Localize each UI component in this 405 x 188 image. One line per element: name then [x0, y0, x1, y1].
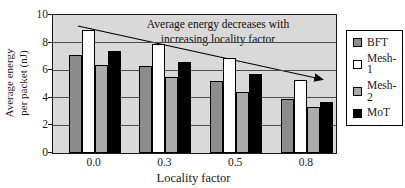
- y-tick-label-0: 0: [28, 146, 48, 158]
- legend: BFTMesh-1Mesh-2MoT: [346, 30, 403, 126]
- legend-label-mesh-2: Mesh-2: [367, 80, 402, 103]
- y-tick-label-10: 10: [28, 8, 48, 20]
- chart-figure: Average energy per packet (nJ) Average e…: [0, 0, 405, 188]
- y-tick-mark-0: [48, 152, 52, 153]
- y-tick-mark-10: [48, 14, 52, 15]
- y-tick-label-4: 4: [28, 91, 48, 103]
- legend-item-bft: BFT: [353, 37, 402, 49]
- bar-mot-0.5: [249, 74, 262, 153]
- legend-item-mot: MoT: [353, 107, 402, 119]
- bar-mesh-2-0.8: [307, 107, 320, 153]
- bar-bft-0.5: [210, 81, 223, 153]
- bar-mesh-2-0.5: [236, 92, 249, 153]
- legend-label-mot: MoT: [367, 107, 390, 119]
- y-tick-label-8: 8: [28, 36, 48, 48]
- legend-swatch-bft: [353, 38, 362, 47]
- bar-mesh-1-0.3: [152, 44, 165, 153]
- legend-swatch-mot: [353, 109, 362, 118]
- y-axis-title-line2: per packet (nJ): [17, 50, 29, 115]
- bar-mot-0.3: [178, 62, 191, 153]
- bar-bft-0.8: [281, 99, 294, 153]
- bar-mesh-2-0.0: [95, 65, 108, 153]
- bar-mot-0.0: [108, 51, 121, 153]
- y-axis-title-line1: Average energy: [3, 49, 15, 118]
- bar-mesh-1-0.8: [294, 80, 307, 153]
- legend-label-bft: BFT: [367, 37, 388, 49]
- y-tick-mark-2: [48, 124, 52, 125]
- bar-mot-0.8: [320, 102, 333, 153]
- x-tick-label-0.5: 0.5: [213, 156, 257, 168]
- legend-item-mesh-1: Mesh-1: [353, 53, 402, 76]
- y-tick-mark-6: [48, 69, 52, 70]
- y-tick-mark-4: [48, 97, 52, 98]
- bar-mesh-1-0.0: [82, 30, 95, 153]
- x-tick-label-0.3: 0.3: [142, 156, 186, 168]
- bar-mesh-1-0.5: [223, 58, 236, 153]
- legend-label-mesh-1: Mesh-1: [367, 53, 402, 76]
- x-tick-label-0.8: 0.8: [284, 156, 328, 168]
- legend-swatch-mesh-2: [353, 87, 362, 96]
- legend-swatch-mesh-1: [353, 60, 362, 69]
- bar-bft-0.0: [69, 55, 82, 153]
- x-tick-label-0.0: 0.0: [72, 156, 116, 168]
- y-tick-label-2: 2: [28, 118, 48, 130]
- y-tick-mark-8: [48, 42, 52, 43]
- legend-item-mesh-2: Mesh-2: [353, 80, 402, 103]
- bar-bft-0.3: [139, 66, 152, 153]
- gridline-y8: [53, 42, 336, 43]
- plot-area: Average energy decreases with increasing…: [52, 14, 337, 154]
- y-tick-label-6: 6: [28, 63, 48, 75]
- y-axis-title: Average energy per packet (nJ): [3, 13, 33, 153]
- bar-mesh-2-0.3: [165, 77, 178, 153]
- x-axis-title: Locality factor: [52, 171, 335, 186]
